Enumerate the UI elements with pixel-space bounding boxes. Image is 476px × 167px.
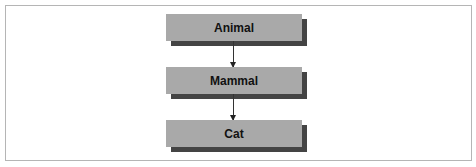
arrow-animal-to-mammal [233, 41, 234, 67]
node-label-mammal: Mammal [166, 67, 302, 94]
node-label-animal: Animal [166, 14, 302, 41]
node-animal: Animal [166, 14, 302, 41]
node-mammal: Mammal [166, 67, 302, 94]
arrow-mammal-to-cat [233, 94, 234, 120]
node-cat: Cat [166, 120, 302, 147]
node-label-cat: Cat [166, 120, 302, 147]
